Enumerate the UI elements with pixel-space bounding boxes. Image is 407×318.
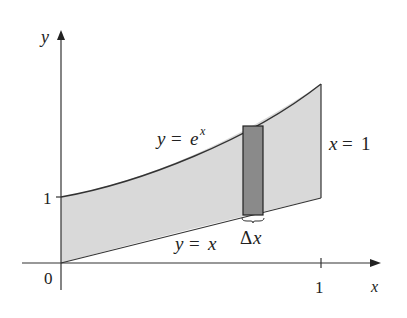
y-axis-arrow-icon <box>57 30 65 40</box>
x-axis-arrow-icon <box>370 259 381 267</box>
origin-label: 0 <box>44 269 53 288</box>
label-y-equals-ex: y = e x <box>155 124 206 149</box>
label-y-equals-x: y = x <box>173 233 217 254</box>
svg-text:x: x <box>328 133 338 154</box>
svg-text:x: x <box>207 233 217 254</box>
label-x-equals-1: x = 1 <box>328 133 371 154</box>
svg-text:y: y <box>173 233 184 254</box>
approx-rectangle <box>243 126 263 215</box>
label-delta-x: Δ x <box>240 227 262 248</box>
svg-text:=: = <box>189 233 200 254</box>
svg-text:=: = <box>171 128 182 149</box>
svg-text:Δ: Δ <box>240 227 252 248</box>
svg-text:x: x <box>199 124 206 138</box>
x-axis-label: x <box>370 278 378 295</box>
svg-text:y: y <box>155 128 166 149</box>
delta-x-brace <box>242 218 264 223</box>
y-tick-label: 1 <box>43 189 52 208</box>
x-tick-label: 1 <box>315 278 324 297</box>
area-between-curves-diagram: y x 0 1 1 y = e x y = x x = 1 Δ x <box>0 0 407 318</box>
svg-text:=: = <box>342 133 353 154</box>
svg-text:e: e <box>190 128 198 149</box>
svg-text:1: 1 <box>361 133 371 154</box>
svg-text:x: x <box>252 227 262 248</box>
y-axis-label: y <box>39 27 49 47</box>
